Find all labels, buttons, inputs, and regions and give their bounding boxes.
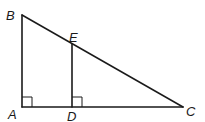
label-d: D — [67, 109, 76, 122]
label-b: B — [6, 8, 15, 23]
label-c: C — [186, 104, 196, 119]
label-a: A — [7, 107, 17, 122]
right-angle-marker-d — [72, 97, 82, 107]
segment-bc — [22, 15, 183, 107]
right-angle-marker-a — [22, 97, 32, 107]
label-e: E — [69, 30, 78, 45]
triangle-diagram: B E A D C — [0, 0, 205, 122]
